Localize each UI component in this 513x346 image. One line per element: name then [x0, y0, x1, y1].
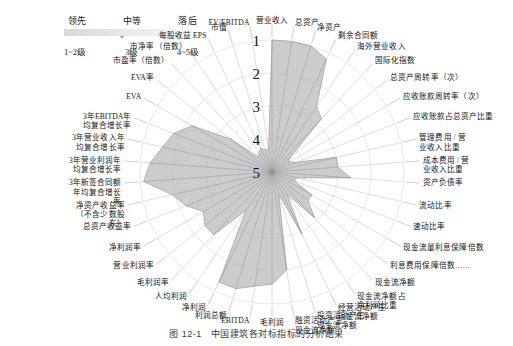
axis-label-8: 应收账款占总资产比重 [413, 112, 494, 121]
ring-label-2: 2 [253, 66, 261, 82]
axis-label-1: 总资产 [295, 18, 319, 27]
axis-label-41: EV/EBITDA [209, 18, 250, 27]
ring-label-3: 3 [253, 99, 261, 115]
axis-label-12: 流动比率 [419, 201, 451, 210]
axis-label-10: 成本费用 / 营业收入比重 [423, 156, 477, 175]
axis-label-9: 管理费用 / 营业收入比重 [419, 133, 473, 152]
axis-label-33: 3年营业收入年均复合增长率 [71, 133, 125, 152]
axis-label-38: 市净率（倍数） [130, 42, 187, 51]
axis-label-34: 3年EBITDA年均复合增长率 [77, 112, 131, 131]
axis-label-35: EVA [126, 92, 141, 101]
axis-label-24: 净利润 [182, 303, 206, 312]
axis-label-31: 3年新签合同额年均复合增长率 [67, 178, 121, 206]
axis-label-5: 国际化指数 [375, 56, 416, 65]
axis-label-25: 人均利润 [155, 292, 187, 301]
axis-label-36: EVA率 [131, 73, 154, 82]
axis-label-23: 利润总额 [195, 311, 227, 320]
axis-label-0: 营业收入 [244, 16, 300, 25]
axis-label-37: 市盈率（倍数） [113, 56, 170, 65]
axis-label-7: 应收账款周转率（次） [403, 92, 484, 101]
figure-caption: 图 12-1中国建筑各对标指标的分析结果 [0, 327, 513, 340]
axis-label-27: 营业利润率 [113, 261, 154, 270]
ring-label-4: 4 [253, 132, 261, 148]
axis-label-15: 利息费用保障倍数…… [390, 261, 470, 270]
axis-label-4: 海外营业收入 [357, 42, 406, 51]
axis-label-39: 每股收益 EPS [159, 31, 207, 40]
figure-number: 图 12-1 [169, 329, 202, 339]
ring-label-5: 5 [253, 165, 261, 181]
axis-label-11: 资产负债率 [423, 178, 464, 187]
figure-caption-text: 中国建筑各对标指标的分析结果 [211, 329, 344, 339]
axis-label-21: 毛利润 [244, 318, 300, 327]
figure-container: 领先 中等 落后 1~2级 3级 4~5级 12345 营业收入总资产净资产剩余… [0, 0, 513, 346]
axis-label-28: 净利润率 [109, 243, 141, 252]
axis-label-3: 剩余合同额 [338, 31, 379, 40]
axis-label-26: 毛利润率 [137, 278, 169, 287]
axis-label-6: 总资产周转率（次） [390, 73, 463, 82]
axis-label-13: 速动比率 [413, 222, 445, 231]
axis-label-32: 3年营业利润年均复合增长率 [67, 156, 121, 175]
axis-label-16: 现金流净额 [375, 278, 416, 287]
axis-label-14: 现金流量利息保障倍数 [403, 243, 484, 252]
ring-label-1: 1 [253, 33, 261, 49]
